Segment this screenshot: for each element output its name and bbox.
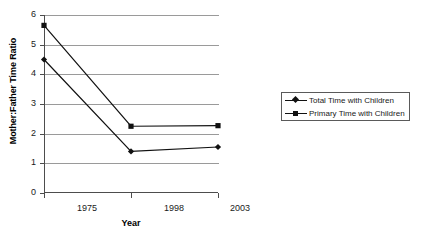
y-tick-label-0: 0 [24,188,36,197]
data-point-diamond [215,144,221,150]
x-tick-label-1998: 1998 [144,203,204,213]
x-tick-label-1975: 1975 [57,203,117,213]
legend-label-total-time: Total Time with Children [307,96,394,106]
y-tick-label-5: 5 [24,40,36,49]
x-axis-title: Year [44,218,218,228]
series-line [44,60,218,152]
line-chart: 6 5 4 3 2 1 0 Mother:Father Time Ratio 1… [0,0,427,241]
diamond-marker-icon [285,96,307,106]
series-line [44,25,218,126]
data-point-square [41,23,46,28]
y-axis-title: Mother:Father Time Ratio [8,16,18,166]
y-tick-label-1: 1 [24,158,36,167]
y-tick-label-3: 3 [24,99,36,108]
x-tick-mark-2003 [218,193,219,198]
data-point-square [215,123,220,128]
chart-legend: Total Time with Children Primary Time wi… [281,92,410,121]
series-primary-time [41,23,220,129]
square-marker-icon [285,109,307,119]
legend-label-primary-time: Primary Time with Children [307,109,405,119]
x-tick-label-2003: 2003 [210,203,270,213]
y-tick-label-2: 2 [24,129,36,138]
data-point-square [128,124,133,129]
y-tick-label-4: 4 [24,69,36,78]
series-layer [44,15,218,193]
y-tick-label-6: 6 [24,10,36,19]
series-total-time [41,56,221,154]
legend-item-total-time[interactable]: Total Time with Children [285,95,406,107]
x-tick-mark-1998 [131,193,132,198]
legend-item-primary-time[interactable]: Primary Time with Children [285,108,406,120]
x-tick-mark-1975 [44,193,45,198]
